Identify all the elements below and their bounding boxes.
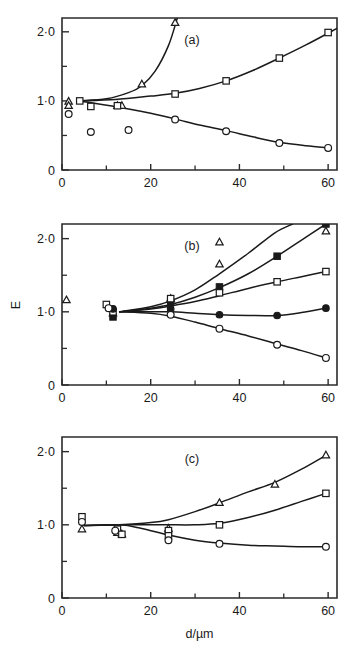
x-axis-title: d/µm [185,627,213,641]
y-tick-label: 1·0 [37,518,55,532]
data-point-open-circle [125,127,132,134]
data-point-open-square [167,295,173,301]
x-tick-label: 0 [59,604,66,618]
data-point-open-square [114,103,120,109]
data-point-open-circle [323,355,330,362]
series-layer [65,18,337,151]
data-point-open-circle [105,305,112,312]
data-point-open-circle [276,140,283,147]
data-point-open-circle [167,311,174,318]
data-point-open-square [323,490,329,496]
y-tick-label: 0 [48,592,55,606]
plot-panel-a: 01·02·00204060(a) [37,18,337,190]
x-tick-label: 40 [232,176,246,190]
x-tick-label: 20 [144,176,158,190]
series-layer [78,451,329,550]
data-point-filled-circle [323,305,330,312]
panel-label: (a) [184,33,199,47]
x-tick-label: 40 [232,604,246,618]
x-tick-label: 60 [321,176,335,190]
data-point-filled-square [323,221,329,227]
data-point-open-circle [325,144,332,151]
y-tick-label: 1·0 [37,305,55,319]
data-point-open-square [216,522,222,528]
data-point-open-triangle-upper [322,227,329,234]
data-point-open-square [88,103,94,109]
y-tick-label: 2·0 [37,25,55,39]
y-tick-label: 2·0 [37,232,55,246]
data-point-filled-circle [216,311,223,318]
y-tick-label: 2·0 [37,445,55,459]
data-point-open-circle [216,325,223,332]
x-tick-label: 0 [59,391,66,405]
panel-label: (c) [185,452,200,466]
data-point-open-circle [323,543,330,550]
data-point-open-circle [87,129,94,136]
x-tick-label: 40 [232,391,246,405]
data-point-open-circle [165,537,172,544]
data-point-filled-square [274,253,280,259]
x-tick-label: 20 [144,604,158,618]
data-point-open-circle [112,527,119,534]
x-tick-label: 60 [321,604,335,618]
data-point-open-circle [216,540,223,547]
data-point-open-triangle-upper [63,296,70,303]
data-point-open-circle [65,111,72,118]
curve-open-circle [120,312,326,358]
data-point-open-square [172,91,178,97]
data-point-open-square [276,55,282,61]
data-point-open-square [325,29,331,35]
data-point-open-triangle-upper [216,238,223,245]
y-axis-title: E [9,301,23,309]
plot-frame [62,437,337,598]
plot-panel-b: 01·02·00204060(b) [37,221,337,405]
data-point-open-square [323,268,329,274]
curve-open-square [80,28,337,101]
curve-open-triangle [84,455,326,525]
curve-open-triangle [80,18,178,101]
plot-panel-c: 01·02·00204060(c) [37,437,337,618]
data-point-open-square [274,279,280,285]
x-tick-label: 20 [144,391,158,405]
data-point-open-circle [223,128,230,135]
curve-filled-square [120,224,326,312]
curve-open-square [84,493,326,525]
data-point-open-square [216,290,222,296]
data-point-open-triangle [171,19,178,26]
data-point-open-circle [79,518,86,525]
data-point-open-square [119,531,125,537]
y-tick-label: 0 [48,379,55,393]
data-point-open-circle [172,116,179,123]
y-tick-label: 1·0 [37,94,55,108]
data-point-open-circle [274,341,281,348]
x-tick-label: 60 [321,391,335,405]
panel-label: (b) [184,239,199,253]
data-point-open-triangle-upper [216,260,223,267]
y-tick-label: 0 [48,164,55,178]
data-point-open-square [223,78,229,84]
data-point-open-triangle [322,451,329,458]
figure-root: 01·02·00204060(a)01·02·00204060(b)01·02·… [0,0,355,648]
data-point-open-square [77,98,83,104]
x-tick-label: 0 [59,176,66,190]
data-point-filled-circle [274,312,281,319]
